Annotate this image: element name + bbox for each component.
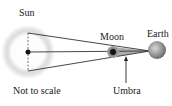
moon bbox=[107, 46, 119, 58]
scale-note: Not to scale bbox=[13, 86, 61, 96]
umbra-arrowhead-icon bbox=[124, 56, 128, 61]
moon-core bbox=[111, 50, 116, 55]
umbra-label: Umbra bbox=[113, 86, 141, 96]
earth-body bbox=[148, 41, 166, 59]
umbra-pointer bbox=[124, 56, 128, 83]
earth-label: Earth bbox=[147, 29, 169, 39]
moon-label: Moon bbox=[100, 32, 124, 42]
sun-label: Sun bbox=[19, 8, 35, 18]
earth bbox=[148, 41, 166, 59]
